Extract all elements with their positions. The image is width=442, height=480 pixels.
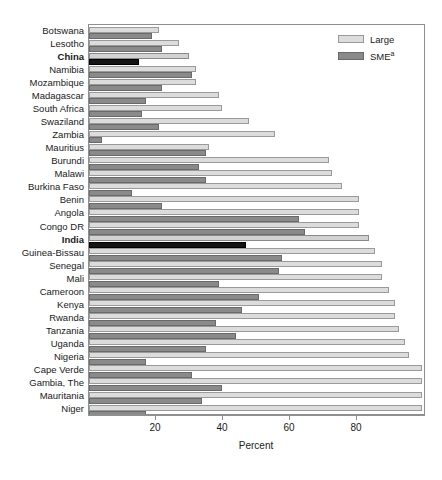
- bar-large: [89, 300, 395, 306]
- bar-large: [89, 40, 179, 46]
- bar-large: [89, 92, 219, 98]
- bar-large: [89, 183, 342, 189]
- bar-row: [89, 116, 424, 129]
- y-axis-label: Uganda: [0, 338, 84, 349]
- legend-label: SMEa: [370, 50, 395, 62]
- bar-row: [89, 207, 424, 220]
- y-axis-label: Burundi: [0, 155, 84, 166]
- bar-row: [89, 390, 424, 403]
- y-axis-label: Malawi: [0, 168, 84, 179]
- bar-row: [89, 377, 424, 390]
- chart-legend: LargeSMEa: [338, 32, 418, 66]
- bar-row: [89, 403, 424, 415]
- y-axis-label: Senegal: [0, 260, 84, 271]
- y-axis-label: Nigeria: [0, 351, 84, 362]
- bar-large: [89, 287, 389, 293]
- bar-row: [89, 129, 424, 142]
- x-axis-tick: [155, 415, 156, 420]
- x-axis-tick-label: 40: [216, 422, 227, 434]
- bar-row: [89, 77, 424, 90]
- bar-large: [89, 209, 359, 215]
- x-axis-tick-label: 80: [350, 422, 361, 434]
- x-axis-line: [88, 415, 425, 416]
- bar-row: [89, 364, 424, 377]
- bar-row: [89, 351, 424, 364]
- bar-row: [89, 260, 424, 273]
- y-axis-label: Benin: [0, 194, 84, 205]
- bar-large: [89, 392, 422, 398]
- bar-large: [89, 339, 405, 345]
- bar-large: [89, 79, 196, 85]
- bar-large: [89, 365, 422, 371]
- bar-large: [89, 274, 382, 280]
- bar-large: [89, 170, 332, 176]
- bar-large: [89, 326, 399, 332]
- legend-item: Large: [338, 32, 418, 46]
- y-axis-label: Mozambique: [0, 77, 84, 88]
- legend-swatch-large: [338, 35, 364, 43]
- bar-row: [89, 168, 424, 181]
- y-axis-label: China: [0, 51, 84, 62]
- bar-large: [89, 53, 189, 59]
- x-axis-title-text: Percent: [239, 440, 273, 451]
- legend-swatch-sme: [338, 52, 364, 60]
- bar-large: [89, 378, 422, 384]
- x-axis-tick: [356, 415, 357, 420]
- bar-row: [89, 299, 424, 312]
- bar-row: [89, 221, 424, 234]
- bar-row: [89, 142, 424, 155]
- bar-row: [89, 325, 424, 338]
- y-axis-label: South Africa: [0, 103, 84, 114]
- y-axis-label: Cape Verde: [0, 364, 84, 375]
- y-axis-labels: BotswanaLesothoChinaNamibiaMozambiqueMad…: [0, 24, 84, 415]
- bar-row: [89, 103, 424, 116]
- bar-row: [89, 155, 424, 168]
- bar-large: [89, 222, 359, 228]
- bar-large: [89, 144, 209, 150]
- legend-item: SMEa: [338, 49, 418, 63]
- x-axis-tick-label: 20: [149, 422, 160, 434]
- y-axis-label: Namibia: [0, 64, 84, 75]
- bar-large: [89, 261, 382, 267]
- bar-row: [89, 90, 424, 103]
- y-axis-label: Mali: [0, 273, 84, 284]
- bar-row: [89, 234, 424, 247]
- y-axis-label: Mauritius: [0, 142, 84, 153]
- y-axis-label: Zambia: [0, 129, 84, 140]
- bar-large: [89, 352, 409, 358]
- y-axis-label: Guinea-Bissau: [0, 247, 84, 258]
- bar-large: [89, 118, 249, 124]
- y-axis-label: Congo DR: [0, 221, 84, 232]
- bar-large: [89, 105, 222, 111]
- y-axis-label: Tanzania: [0, 325, 84, 336]
- y-axis-label: Mauritania: [0, 390, 84, 401]
- bar-large: [89, 157, 329, 163]
- y-axis-label: Angola: [0, 207, 84, 218]
- y-axis-label: Burkina Faso: [0, 181, 84, 192]
- bar-row: [89, 247, 424, 260]
- plot-area: [88, 24, 425, 415]
- y-axis-label: Gambia, The: [0, 377, 84, 388]
- y-axis-label: India: [0, 234, 84, 245]
- bar-large: [89, 313, 395, 319]
- bar-row: [89, 181, 424, 194]
- y-axis-label: Cameroon: [0, 286, 84, 297]
- y-axis-label: Swaziland: [0, 116, 84, 127]
- bar-row: [89, 312, 424, 325]
- x-axis-tick: [289, 415, 290, 420]
- y-axis-label: Niger: [0, 403, 84, 414]
- bar-large: [89, 66, 196, 72]
- y-axis-label: Lesotho: [0, 38, 84, 49]
- bar-row: [89, 273, 424, 286]
- x-axis-tick: [222, 415, 223, 420]
- bar-row: [89, 338, 424, 351]
- y-axis-label: Rwanda: [0, 312, 84, 323]
- x-axis-title: Percent: [0, 440, 442, 451]
- y-axis-label: Kenya: [0, 299, 84, 310]
- bar-large: [89, 248, 375, 254]
- bar-large: [89, 235, 369, 241]
- bar-chart: BotswanaLesothoChinaNamibiaMozambiqueMad…: [0, 0, 442, 480]
- bar-row: [89, 64, 424, 77]
- x-axis-tick-label: 60: [283, 422, 294, 434]
- bar-large: [89, 196, 359, 202]
